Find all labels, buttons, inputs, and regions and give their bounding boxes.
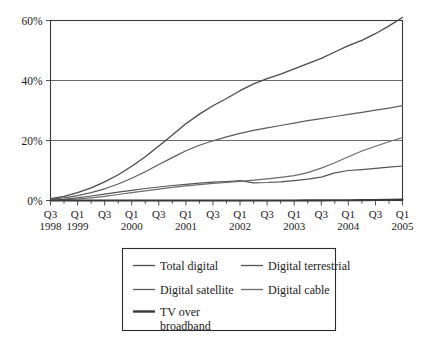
x-axis-year-labels: 19981999200020012002200320042005 (40, 220, 415, 232)
x-axis-year-label: 2000 (121, 220, 144, 232)
legend-label: Digital terrestrial (268, 259, 351, 273)
gridlines-group (51, 21, 403, 141)
series-line-total-digital (51, 18, 403, 199)
x-axis-year-label: 2004 (337, 220, 360, 232)
x-axis-quarter-label: Q1 (396, 208, 409, 220)
legend-label: Total digital (160, 259, 219, 273)
series-line-tv-over-broadband (51, 200, 403, 201)
legend-label-line2: broadband (160, 319, 211, 333)
x-axis-quarter-label: Q1 (342, 208, 355, 220)
line-chart: 0%20%40%60% Q3Q1Q3Q1Q3Q1Q3Q1Q3Q1Q3Q1Q3Q1… (0, 0, 432, 346)
series-group (51, 18, 403, 201)
x-axis-labels: Q3Q1Q3Q1Q3Q1Q3Q1Q3Q1Q3Q1Q3Q1 (44, 208, 409, 220)
x-axis-quarter-label: Q3 (260, 208, 274, 220)
y-axis-tick-label: 40% (21, 75, 43, 87)
x-axis-year-label: 2003 (283, 220, 306, 232)
x-axis-quarter-label: Q1 (287, 208, 300, 220)
legend-label: TV over (160, 305, 200, 319)
tickmarks-group (46, 21, 403, 206)
x-axis-year-label: 2002 (229, 220, 251, 232)
plot-frame (51, 21, 403, 201)
x-axis-quarter-label: Q3 (152, 208, 166, 220)
x-axis-quarter-label: Q3 (206, 208, 220, 220)
x-axis-quarter-label: Q3 (98, 208, 112, 220)
y-axis-labels: 0%20%40%60% (21, 15, 43, 207)
chart-container: 0%20%40%60% Q3Q1Q3Q1Q3Q1Q3Q1Q3Q1Q3Q1Q3Q1… (0, 0, 432, 346)
x-axis-year-label: 2001 (175, 220, 197, 232)
x-axis-quarter-label: Q3 (315, 208, 329, 220)
x-axis-quarter-label: Q1 (125, 208, 138, 220)
x-axis-quarter-label: Q1 (179, 208, 192, 220)
x-axis-year-label: 2005 (392, 220, 415, 232)
x-axis-quarter-label: Q1 (233, 208, 246, 220)
legend: Total digitalDigital terrestrialDigital … (123, 249, 351, 334)
x-axis-quarter-label: Q3 (44, 208, 58, 220)
y-axis-tick-label: 60% (21, 15, 43, 27)
x-axis-quarter-label: Q1 (71, 208, 84, 220)
series-line-digital-cable (51, 138, 403, 201)
x-axis-year-label: 1998 (40, 220, 63, 232)
legend-label: Digital satellite (160, 283, 234, 297)
series-line-digital-satellite (51, 106, 403, 200)
x-axis-quarter-label: Q3 (369, 208, 383, 220)
y-axis-tick-label: 0% (27, 195, 43, 207)
y-axis-tick-label: 20% (21, 135, 43, 147)
x-axis-year-label: 1999 (67, 220, 90, 232)
legend-label: Digital cable (268, 283, 330, 297)
axes-group (51, 21, 403, 201)
